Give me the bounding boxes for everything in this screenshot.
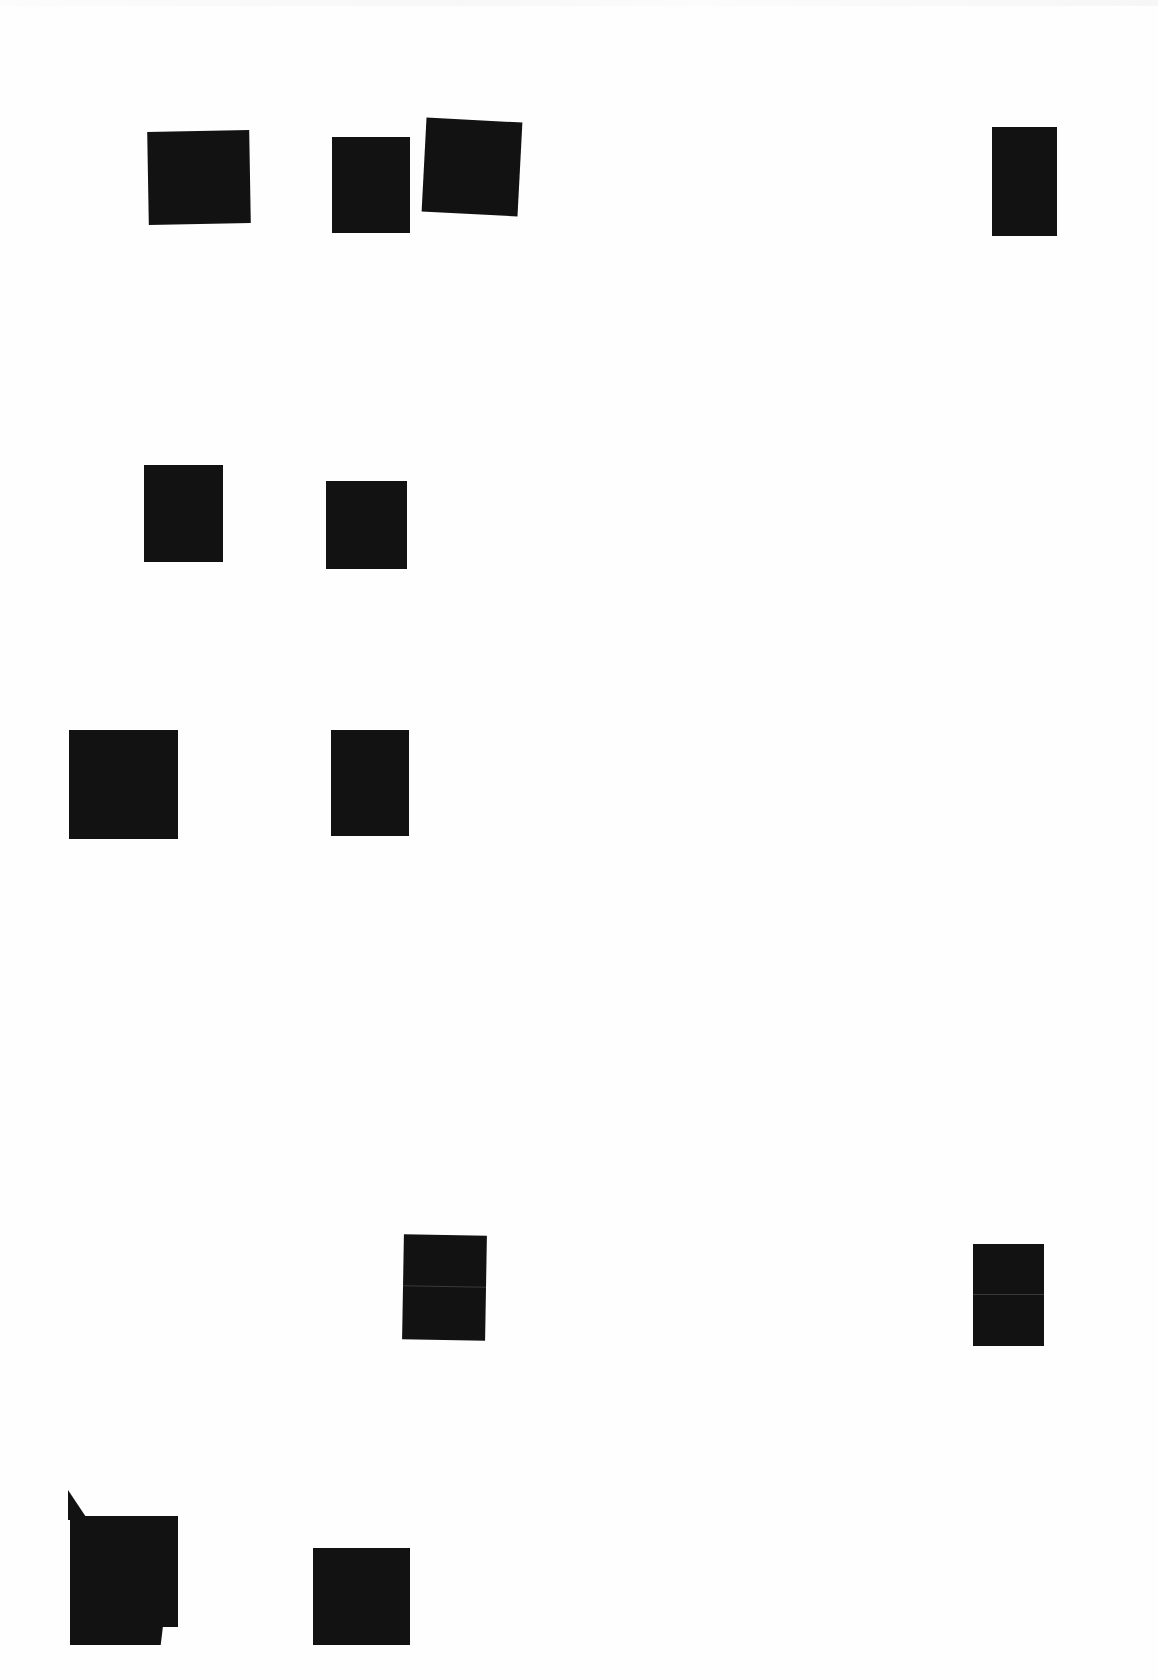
scan-edge-artifact [0, 0, 1158, 6]
redaction-box [992, 127, 1057, 236]
tape-seam [973, 1294, 1044, 1295]
redaction-box [973, 1244, 1044, 1346]
tape-seam [403, 1285, 486, 1287]
redaction-box [402, 1234, 487, 1340]
redaction-box [70, 1516, 178, 1645]
scanned-document-page [0, 0, 1158, 1680]
redaction-box [68, 1490, 88, 1520]
redaction-box [69, 730, 178, 839]
redaction-box [144, 465, 223, 562]
redaction-box [422, 118, 523, 217]
redaction-box [332, 137, 410, 233]
redaction-box [326, 481, 407, 569]
redaction-box [331, 730, 409, 836]
redaction-box [147, 130, 251, 225]
redaction-box [313, 1548, 410, 1645]
